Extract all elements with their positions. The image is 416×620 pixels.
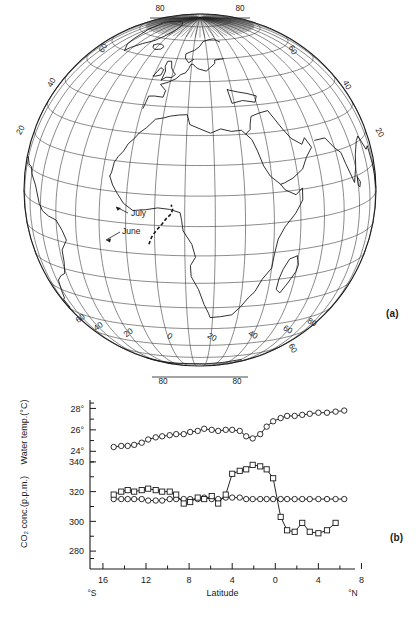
globe-map: JulyJune60402060402060604020020406080808… [0, 0, 416, 392]
data-point [209, 493, 214, 498]
data-point [230, 427, 235, 432]
data-point [284, 496, 289, 501]
data-point [159, 498, 164, 503]
data-point [131, 496, 136, 501]
data-point [119, 496, 124, 501]
data-point [270, 496, 275, 501]
data-point [187, 429, 192, 434]
data-point [139, 496, 144, 501]
data-point [278, 514, 283, 519]
data-point [195, 428, 200, 433]
xtick-label-5: 4 [316, 575, 321, 585]
ytick-label-temp-24: 24° [70, 446, 84, 456]
lon-label-bottom-80-1: 80 [232, 377, 242, 386]
data-point [316, 531, 321, 536]
data-point [278, 496, 283, 501]
figure-container: JulyJune60402060402060604020020406080808… [0, 0, 416, 620]
data-point [285, 528, 290, 533]
x-axis-title: Latitude [206, 588, 238, 598]
data-point [167, 433, 172, 438]
data-point [250, 436, 255, 441]
data-point [153, 435, 158, 440]
data-point [316, 410, 321, 415]
data-point [333, 520, 338, 525]
data-point [181, 431, 186, 436]
x-axis-left-unit: °S [87, 588, 96, 598]
data-point [258, 464, 263, 469]
data-point [119, 489, 124, 494]
x-axis-right-unit: °N [348, 588, 358, 598]
ytick-label-temp-26: 26° [70, 425, 84, 435]
data-point [324, 528, 329, 533]
data-point [258, 496, 263, 501]
data-point [160, 489, 165, 494]
data-point [139, 440, 144, 445]
ytick-label-co2-300: 300 [69, 517, 84, 527]
series-water_temp-circle [111, 408, 347, 450]
ytick-label-co2-340: 340 [69, 457, 84, 467]
panel-a-label: (a) [386, 308, 399, 319]
data-point [264, 496, 269, 501]
data-point [284, 413, 289, 418]
data-point [324, 410, 329, 415]
latitude-profile-chart: 24°26°28°280300320340161284048Latitude°S… [0, 392, 416, 620]
data-point [215, 428, 220, 433]
data-point [271, 476, 276, 481]
data-point [300, 412, 305, 417]
data-point [173, 431, 178, 436]
data-point [300, 496, 305, 501]
lat-label-left-2: 20 [14, 123, 27, 136]
lon-label-top-0: 80 [155, 4, 165, 13]
y-axis-title-co2: CO₂ conc.(p.p.m.) [19, 476, 29, 548]
data-point [292, 496, 297, 501]
data-point [307, 496, 312, 501]
data-point [216, 501, 221, 506]
data-point [244, 434, 249, 439]
data-point [159, 434, 164, 439]
data-point [264, 467, 269, 472]
data-point [146, 486, 151, 491]
data-point [270, 419, 275, 424]
data-point [223, 427, 228, 432]
data-point [201, 426, 206, 431]
data-point [131, 442, 136, 447]
lat-label-left-1: 40 [45, 76, 58, 89]
data-point [181, 501, 186, 506]
data-point [139, 488, 144, 493]
panel-b-label: (b) [390, 532, 403, 543]
ytick-label-co2-280: 280 [69, 546, 84, 556]
data-point [153, 488, 158, 493]
data-point [264, 424, 269, 429]
lon-label-top-1: 80 [235, 4, 245, 13]
data-point [333, 409, 338, 414]
data-point [132, 489, 137, 494]
xtick-label-3: 4 [230, 575, 235, 585]
data-point [230, 495, 235, 500]
xtick-label-2: 8 [187, 575, 192, 585]
chart-series [111, 408, 347, 536]
data-point [237, 495, 242, 500]
data-point [333, 496, 338, 501]
data-point [145, 437, 150, 442]
map-label-june: June [122, 226, 141, 236]
data-point [307, 529, 312, 534]
data-point [145, 498, 150, 503]
data-point [111, 492, 116, 497]
data-point [167, 489, 172, 494]
data-point [300, 520, 305, 525]
xtick-label-0: 16 [98, 575, 108, 585]
data-point [167, 496, 172, 501]
data-point [125, 488, 130, 493]
map-label-july: July [131, 208, 147, 218]
ytick-label-temp-28: 28° [70, 404, 84, 414]
data-point [188, 499, 193, 504]
data-point [230, 471, 235, 476]
data-point [209, 427, 214, 432]
data-point [278, 415, 283, 420]
data-point [195, 495, 200, 500]
y-axis-title-water-temp: Water temp.(°C) [19, 400, 29, 465]
data-point [342, 496, 347, 501]
data-point [292, 413, 297, 418]
data-point [223, 492, 228, 497]
data-point [153, 498, 158, 503]
